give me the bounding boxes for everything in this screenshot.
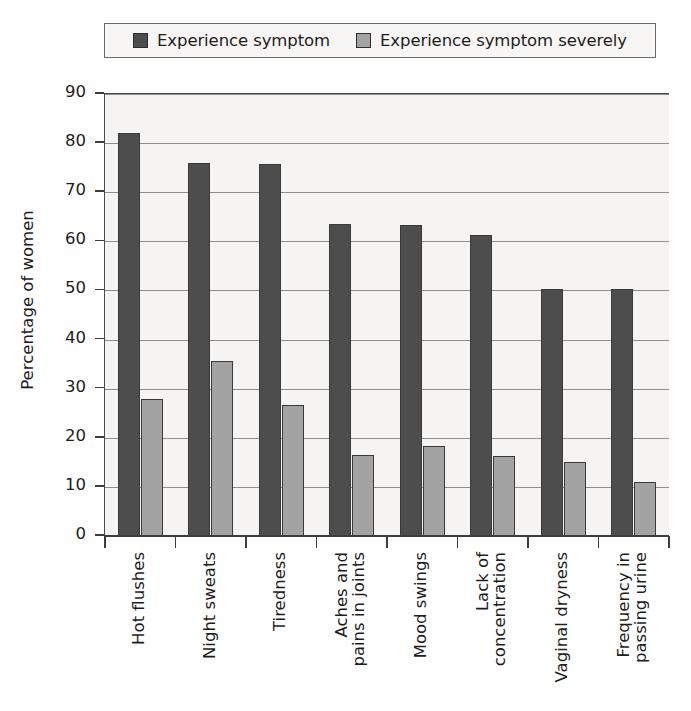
y-tick-label: 0 <box>40 524 86 543</box>
bar <box>282 405 304 536</box>
bar <box>423 446 445 536</box>
y-tick-mark <box>95 387 104 389</box>
bar <box>634 482 656 536</box>
x-category-label: Aches andpains in joints <box>316 552 387 702</box>
gridline <box>105 94 669 95</box>
plot-area <box>104 93 669 536</box>
bar <box>211 361 233 536</box>
y-tick-mark <box>95 289 104 291</box>
legend-label-experience-symptom-severely: Experience symptom severely <box>380 31 627 50</box>
legend-label-experience-symptom: Experience symptom <box>157 31 330 50</box>
x-category-label-line: passing urine <box>633 552 650 663</box>
x-category-label: Night sweats <box>175 552 246 702</box>
y-tick-mark <box>95 92 104 94</box>
y-tick-label: 30 <box>40 377 86 396</box>
x-category-label-line: concentration <box>492 552 509 666</box>
bar <box>564 462 586 536</box>
y-tick-label: 40 <box>40 328 86 347</box>
x-category-label-line: Tiredness <box>272 552 289 631</box>
x-tick-mark <box>386 536 388 548</box>
x-tick-mark <box>527 536 529 548</box>
y-tick-mark <box>95 436 104 438</box>
bar <box>493 456 515 536</box>
bar <box>259 164 281 536</box>
y-tick-label: 10 <box>40 475 86 494</box>
gridline <box>105 143 669 144</box>
y-tick-mark <box>95 534 104 536</box>
y-tick-label: 90 <box>40 82 86 101</box>
y-tick-mark <box>95 485 104 487</box>
bar <box>329 224 351 536</box>
y-tick-mark <box>95 240 104 242</box>
x-category-label: Hot flushes <box>104 552 175 702</box>
x-category-label: Mood swings <box>386 552 457 702</box>
x-tick-mark <box>175 536 177 548</box>
x-tick-mark <box>668 536 670 548</box>
y-tick-mark <box>95 190 104 192</box>
x-category-label: Frequency inpassing urine <box>598 552 669 702</box>
x-category-label: Tiredness <box>245 552 316 702</box>
x-category-label-line: Aches and <box>334 552 351 638</box>
x-tick-mark <box>598 536 600 548</box>
y-axis-title: Percentage of women <box>14 65 40 535</box>
x-category-label: Vaginal dryness <box>527 552 598 702</box>
legend-swatch-light <box>356 33 371 48</box>
x-category-label-line: pains in joints <box>351 552 368 667</box>
y-tick-label: 70 <box>40 180 86 199</box>
legend-swatch-dark <box>133 33 148 48</box>
bar <box>188 163 210 536</box>
y-tick-label: 50 <box>40 278 86 297</box>
bar <box>470 235 492 536</box>
y-tick-label: 80 <box>40 131 86 150</box>
x-tick-mark <box>457 536 459 548</box>
chart-legend: Experience symptom Experience symptom se… <box>104 23 656 58</box>
bar <box>118 133 140 536</box>
x-tick-mark <box>104 536 106 548</box>
x-category-label-line: Mood swings <box>413 552 430 658</box>
x-tick-mark <box>316 536 318 548</box>
y-tick-label: 20 <box>40 426 86 445</box>
plot-inner <box>105 94 669 536</box>
bar <box>541 289 563 536</box>
x-category-label: Lack ofconcentration <box>457 552 528 702</box>
bar-chart-figure: Experience symptom Experience symptom se… <box>0 0 691 711</box>
y-tick-mark <box>95 141 104 143</box>
legend-entry-experience-symptom: Experience symptom <box>133 31 330 50</box>
bar <box>400 225 422 536</box>
x-category-label-line: Night sweats <box>202 552 219 659</box>
x-tick-mark <box>245 536 247 548</box>
y-tick-mark <box>95 338 104 340</box>
bar <box>352 455 374 536</box>
legend-entry-experience-symptom-severely: Experience symptom severely <box>356 31 627 50</box>
x-category-label-line: Hot flushes <box>131 552 148 645</box>
x-category-label-line: Vaginal dryness <box>554 552 571 682</box>
bar <box>611 289 633 536</box>
x-category-label-line: Lack of <box>475 552 492 611</box>
bar <box>141 399 163 537</box>
y-tick-label: 60 <box>40 229 86 248</box>
x-category-label-line: Frequency in <box>616 552 633 658</box>
